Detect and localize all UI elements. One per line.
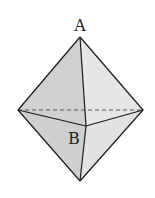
vertex-label-b: B	[68, 129, 80, 148]
vertex-label-a: A	[73, 16, 86, 35]
octahedron-diagram: A B	[0, 0, 155, 198]
